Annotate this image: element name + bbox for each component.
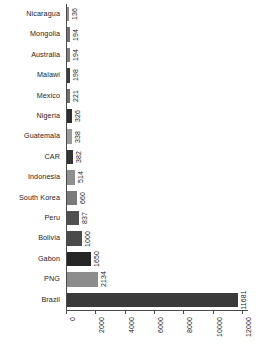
bar [67,27,70,41]
bar [67,293,238,307]
bar [67,89,70,103]
value-label: 2134 [100,271,107,287]
category-label: South Korea [0,188,60,208]
bar-row: Australia194 [66,45,248,65]
value-label: 198 [71,69,78,81]
value-label: 221 [72,90,79,102]
bar [67,7,69,21]
category-label: Nigeria [0,106,60,126]
value-label: 660 [78,192,85,204]
category-label: Nicaragua [0,4,60,24]
bar-row: Indonesia514 [66,167,248,187]
category-label: Mongolia [0,24,60,44]
x-tick [154,311,155,314]
bar-row: Nicaragua136 [66,4,248,24]
x-tick-label: 8000 [186,317,193,333]
plot-area: Nicaragua136Mongolia194Australia194Malaw… [66,4,248,310]
category-label: Mexico [0,86,60,106]
x-tick-label: 2000 [98,317,105,333]
bar-row: Mongolia194 [66,24,248,44]
category-label: Malawi [0,65,60,85]
x-tick-label: 0 [69,317,76,321]
bar-chart: Nicaragua136Mongolia194Australia194Malaw… [0,0,259,360]
value-label: 136 [71,8,78,20]
x-axis-line [66,310,248,311]
bar-row: Nigeria326 [66,106,248,126]
value-label: 1000 [83,231,90,247]
x-tick [213,311,214,314]
category-label: Guatemala [0,126,60,146]
bar-row: Malawi198 [66,65,248,85]
bar-row: Bolivia1000 [66,228,248,248]
category-label: Peru [0,208,60,228]
bar [67,150,73,164]
bar [67,109,72,123]
x-tick-label: 10000 [216,317,223,337]
category-label: Brazil [0,290,60,310]
value-label: 194 [71,29,78,41]
bar-row: Gabon1650 [66,249,248,269]
value-label: 194 [71,49,78,61]
x-tick-label: 6000 [157,317,164,333]
category-label: CAR [0,147,60,167]
bar-row: Mexico221 [66,86,248,106]
bar-row: PNG2134 [66,269,248,289]
value-label: 514 [76,171,83,183]
bar [67,48,70,62]
category-label: Gabon [0,249,60,269]
category-label: Bolivia [0,228,60,248]
value-label: 837 [81,212,88,224]
bar [67,272,98,286]
bar [67,68,70,82]
bar [67,211,79,225]
x-tick [66,311,67,314]
x-tick-label: 4000 [128,317,135,333]
value-label: 1650 [93,251,100,267]
value-label: 338 [73,131,80,143]
category-label: Indonesia [0,167,60,187]
bar [67,191,77,205]
bar-row: South Korea660 [66,188,248,208]
bar-row: Peru837 [66,208,248,228]
x-tick-label: 12000 [245,317,252,337]
value-label: 382 [74,151,81,163]
bar-row: Brazil11681 [66,290,248,310]
bar-row: Guatemala338 [66,126,248,146]
category-label: PNG [0,269,60,289]
value-label: 326 [73,110,80,122]
bar-row: CAR382 [66,147,248,167]
x-tick [95,311,96,314]
bar [67,252,91,266]
bar [67,129,72,143]
bar [67,170,75,184]
category-label: Australia [0,45,60,65]
x-tick [242,311,243,314]
value-label: 11681 [240,290,247,309]
bar [67,231,82,245]
x-tick [125,311,126,314]
x-tick [183,311,184,314]
